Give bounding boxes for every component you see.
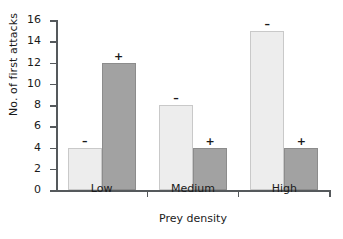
y-axis-tick: 4: [50, 148, 56, 150]
y-axis-tick-label: 0: [34, 182, 41, 197]
x-axis-label-low: Low: [56, 182, 147, 195]
x-axis-label-high: High: [239, 182, 330, 195]
bar-marker: +: [194, 136, 226, 147]
bar-chart-figure: No. of first attacks 1614121086420 –+–+–…: [0, 0, 343, 239]
plot-area: 1614121086420 –+–+–+: [56, 20, 330, 190]
bar-marker: –: [160, 93, 192, 104]
bar-marker: –: [69, 136, 101, 147]
y-axis-tick-label: 10: [27, 76, 41, 91]
y-axis-tick: 14: [50, 41, 56, 43]
y-axis-tick-label: 4: [34, 140, 41, 155]
y-axis-tick-label: 6: [34, 118, 41, 133]
y-axis-tick: 6: [50, 126, 56, 128]
y-axis-tick: 12: [50, 63, 56, 65]
y-axis-tick: 8: [50, 105, 56, 107]
y-axis-tick-label: 12: [27, 55, 41, 70]
y-axis-tick-label: 8: [34, 97, 41, 112]
bar-marker: +: [285, 136, 317, 147]
bar-low-plus: +: [102, 63, 136, 191]
y-axis-tick-label: 16: [27, 12, 41, 27]
y-axis-title: No. of first attacks: [7, 0, 20, 135]
bar-marker: +: [103, 51, 135, 62]
y-axis-tick-label: 2: [34, 161, 41, 176]
x-axis-title: Prey density: [56, 212, 330, 225]
x-axis-label-medium: Medium: [147, 182, 238, 195]
y-axis-tick: 2: [50, 169, 56, 171]
y-axis-line: [56, 20, 58, 190]
bar-marker: –: [251, 19, 283, 30]
y-axis-tick-label: 14: [27, 33, 41, 48]
y-axis-tick: 10: [50, 84, 56, 86]
y-axis-tick: 16: [50, 20, 56, 22]
bar-high-minus: –: [250, 31, 284, 190]
bar-medium-minus: –: [159, 105, 193, 190]
